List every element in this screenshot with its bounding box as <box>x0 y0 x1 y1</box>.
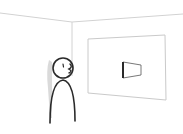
ceiling-line-right <box>72 14 183 22</box>
comic-drawing <box>0 0 183 134</box>
small-box-icon <box>123 62 141 78</box>
stick-figure <box>50 58 75 123</box>
comic-scene <box>0 0 183 134</box>
figure-eye <box>63 64 64 67</box>
ceiling-line-left <box>0 13 72 22</box>
figure-body <box>50 80 75 123</box>
figure-shadow <box>47 60 52 118</box>
